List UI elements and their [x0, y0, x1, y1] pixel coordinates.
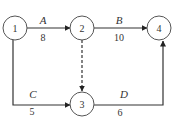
edge-d	[94, 41, 163, 105]
activity-label-d: D	[119, 88, 128, 100]
activity-label-c: C	[29, 88, 37, 100]
svg-text:4: 4	[157, 23, 162, 34]
node-2: 2	[70, 16, 94, 40]
duration-label-b: 10	[114, 32, 124, 43]
duration-label-c: 5	[30, 106, 35, 117]
duration-label-d: 6	[118, 107, 123, 118]
svg-text:2: 2	[80, 23, 85, 34]
svg-text:1: 1	[13, 23, 18, 34]
node-4: 4	[147, 16, 171, 40]
svg-text:3: 3	[80, 99, 85, 110]
node-1: 1	[3, 16, 27, 40]
network-diagram: 1 2 3 4 A 8 B 10 C 5 D 6	[0, 0, 183, 125]
activity-label-b: B	[116, 14, 123, 26]
node-3: 3	[70, 92, 94, 116]
activity-label-a: A	[39, 14, 47, 26]
edge-c	[13, 40, 70, 105]
duration-label-a: 8	[41, 32, 46, 43]
